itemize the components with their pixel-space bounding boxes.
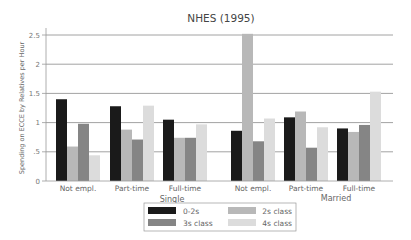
bar: [67, 147, 78, 181]
y-ticks: 0.511.522.5: [29, 32, 46, 186]
group-label-married: Married: [321, 194, 351, 203]
bar: [295, 112, 306, 181]
category-label: Full-time: [169, 184, 202, 193]
legend-label: 2s class: [262, 207, 292, 216]
legend-label: 0-2s: [183, 207, 199, 216]
y-tick-label: 1.5: [29, 90, 40, 98]
bars: [56, 34, 381, 181]
bar: [306, 148, 317, 181]
bar: [242, 34, 253, 181]
bar: [56, 99, 67, 181]
legend-label: 4s class: [262, 219, 292, 228]
category-labels: Not empl.Part-timeFull-timeNot empl.Part…: [60, 184, 376, 193]
y-axis-label: Spending on ECCE by Relatives per Hour: [18, 41, 26, 174]
legend-swatch: [148, 207, 176, 214]
legend-label: 3s class: [183, 219, 213, 228]
bar: [163, 120, 174, 181]
y-tick-label: .5: [33, 148, 40, 156]
group-labels: SingleMarried: [160, 194, 352, 204]
bar: [348, 132, 359, 181]
chart-title: NHES (1995): [187, 12, 254, 24]
bar: [121, 130, 132, 181]
bar: [143, 106, 154, 181]
category-label: Not empl.: [60, 184, 97, 193]
bar: [196, 124, 207, 181]
category-label: Part-time: [289, 184, 324, 193]
bar: [370, 92, 381, 181]
legend: 0-2s2s class3s class4s class: [144, 203, 296, 231]
y-tick-label: 0: [36, 178, 40, 186]
bar: [359, 125, 370, 181]
category-label: Part-time: [115, 184, 150, 193]
bar: [132, 140, 143, 181]
bar: [337, 128, 348, 181]
legend-swatch: [228, 219, 256, 226]
group-label-single: Single: [160, 195, 185, 204]
bar: [89, 155, 100, 181]
category-label: Full-time: [343, 184, 376, 193]
y-tick-label: 2.5: [29, 32, 40, 40]
bar: [174, 138, 185, 181]
legend-swatch: [228, 207, 256, 214]
bar: [317, 127, 328, 181]
bar: [78, 124, 89, 181]
category-label: Not empl.: [235, 184, 272, 193]
y-tick-label: 2: [36, 61, 40, 69]
legend-swatch: [148, 219, 176, 226]
bar: [110, 106, 121, 181]
bar: [284, 117, 295, 181]
bar: [253, 141, 264, 181]
bar: [231, 131, 242, 181]
bar: [264, 119, 275, 181]
bar-chart: NHES (1995) 0.511.522.5 Spending on ECCE…: [0, 0, 411, 240]
y-tick-label: 1: [36, 119, 40, 127]
bar: [185, 138, 196, 181]
